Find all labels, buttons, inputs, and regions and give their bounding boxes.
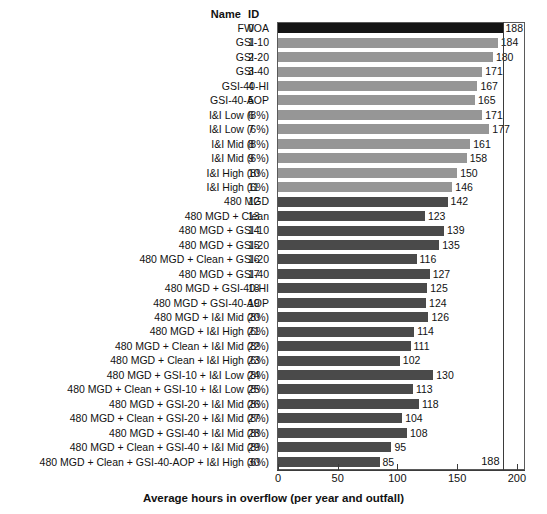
row-label-name: 480 MGD + GSI-10 + I&I Low (8%) xyxy=(107,369,271,381)
x-axis-line xyxy=(277,470,525,471)
table-row: 480 MGD + GSI-10 + I&I Low (8%)24130 xyxy=(0,369,547,383)
row-label-id: 24 xyxy=(248,369,272,381)
reference-line-label: 188 xyxy=(481,455,502,467)
bar-value-label: 85 xyxy=(380,456,395,468)
bar xyxy=(278,226,444,236)
table-row: 480 MGD + GSI-40-AOP19124 xyxy=(0,297,547,311)
x-axis-tick-label: 100 xyxy=(388,472,406,484)
table-row: I&I Mid (6%)9158 xyxy=(0,152,547,166)
bar xyxy=(278,139,470,149)
table-row: I&I Low (6%)7177 xyxy=(0,123,547,137)
x-axis-tick-label: 0 xyxy=(275,472,281,484)
bar xyxy=(278,153,467,163)
table-row: GSI-202180 xyxy=(0,51,547,65)
x-axis-tick xyxy=(278,464,279,471)
table-row: 480 MGD + GSI-2015135 xyxy=(0,239,547,253)
bar-value-label: 126 xyxy=(428,311,449,323)
row-label-id: 13 xyxy=(248,210,272,222)
row-label-id: 22 xyxy=(248,340,272,352)
bar-value-label: 108 xyxy=(407,427,428,439)
bar xyxy=(278,370,433,380)
column-header-id: ID xyxy=(248,8,270,20)
bar xyxy=(278,52,493,62)
x-axis-tick-label: 50 xyxy=(332,472,344,484)
bar xyxy=(278,124,489,134)
bar-value-label: 116 xyxy=(417,253,437,265)
row-label-id: 9 xyxy=(248,152,272,164)
row-label-id: 18 xyxy=(248,282,272,294)
bar-value-label: 142 xyxy=(448,195,469,207)
bar-value-label: 102 xyxy=(400,354,421,366)
bar xyxy=(278,182,452,192)
row-label-id: 0 xyxy=(248,22,272,34)
bar-rows: FWOA0188GSI-101184GSI-202180GSI-403171GS… xyxy=(0,22,547,470)
bar xyxy=(278,327,414,337)
bar xyxy=(278,384,413,394)
row-label-id: 14 xyxy=(248,224,272,236)
x-axis-tick-label: 200 xyxy=(508,472,526,484)
bar-chart: Name ID FWOA0188GSI-101184GSI-202180GSI-… xyxy=(0,0,547,514)
bar-value-label: 130 xyxy=(433,369,454,381)
table-row: I&I Mid (8%)8161 xyxy=(0,138,547,152)
bar xyxy=(278,298,426,308)
row-label-name: 480 MGD + Clean + I&I High (6%) xyxy=(110,354,271,366)
bar-value-label: 127 xyxy=(430,268,451,280)
row-label-name: 480 MGD + GSI-40 + I&I Mid (8%) xyxy=(109,427,271,439)
row-label-name: 480 MGD + Clean + GSI-10 + I&I Low (8%) xyxy=(67,383,271,395)
row-label-id: 29 xyxy=(248,441,272,453)
bar xyxy=(278,428,407,438)
row-label-id: 28 xyxy=(248,427,272,439)
bar-value-label: 171 xyxy=(482,109,503,121)
bar-value-label: 111 xyxy=(411,340,430,352)
bar xyxy=(278,95,475,105)
table-row: 480 MGD + Clean + I&I Mid (8%)22111 xyxy=(0,340,547,354)
table-row: 480 MGD + I&I Mid (8%)20126 xyxy=(0,311,547,325)
bar-value-label: 114 xyxy=(414,325,434,337)
table-row: 480 MGD + GSI-1014139 xyxy=(0,224,547,238)
bar-value-label: 113 xyxy=(413,383,433,395)
x-axis-tick xyxy=(517,464,518,471)
row-label-id: 21 xyxy=(248,325,272,337)
bar xyxy=(278,356,400,366)
table-row: GSI-40-HI4167 xyxy=(0,80,547,94)
row-label-id: 20 xyxy=(248,311,272,323)
bar-value-label: 135 xyxy=(439,239,460,251)
column-header-name: Name xyxy=(211,8,241,20)
x-axis-tick xyxy=(457,464,458,471)
bar xyxy=(278,442,391,452)
bar-value-label: 123 xyxy=(425,210,446,222)
bar xyxy=(278,254,417,264)
x-axis-tick-label: 150 xyxy=(448,472,466,484)
bar xyxy=(278,413,402,423)
row-label-id: 16 xyxy=(248,253,272,265)
table-row: GSI-101184 xyxy=(0,36,547,50)
bar xyxy=(278,399,419,409)
x-axis-tick xyxy=(397,464,398,471)
row-label-id: 26 xyxy=(248,398,272,410)
row-label-id: 7 xyxy=(248,123,272,135)
bar xyxy=(278,23,503,33)
table-row: 480 MGD + Clean + GSI-2016116 xyxy=(0,253,547,267)
row-label-id: 2 xyxy=(248,51,272,63)
table-row: 480 MGD12142 xyxy=(0,195,547,209)
bar-value-label: 146 xyxy=(452,181,473,193)
bar-value-label: 177 xyxy=(489,123,510,135)
bar-value-label: 124 xyxy=(426,297,447,309)
bar xyxy=(278,110,482,120)
row-label-id: 6 xyxy=(248,109,272,121)
row-label-id: 4 xyxy=(248,80,272,92)
row-label-id: 5 xyxy=(248,94,272,106)
bar-value-label: 158 xyxy=(467,152,488,164)
x-axis-title: Average hours in overflow (per year and … xyxy=(0,492,547,504)
row-label-id: 25 xyxy=(248,383,272,395)
bar xyxy=(278,38,498,48)
table-row: 480 MGD + GSI-20 + I&I Mid (8%)26118 xyxy=(0,398,547,412)
table-row: I&I High (8%)10150 xyxy=(0,167,547,181)
bar xyxy=(278,240,439,250)
row-label-id: 12 xyxy=(248,195,272,207)
table-row: I&I Low (8%)6171 xyxy=(0,109,547,123)
bar xyxy=(278,341,411,351)
table-row: GSI-403171 xyxy=(0,65,547,79)
row-label-id: 19 xyxy=(248,297,272,309)
bar-value-label: 171 xyxy=(482,65,503,77)
